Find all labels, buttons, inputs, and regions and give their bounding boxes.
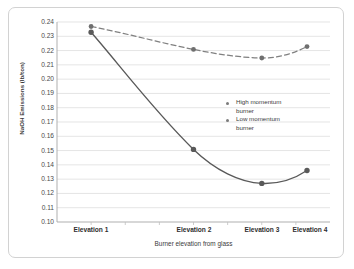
data-point [88,30,93,35]
y-axis-title: NaOH Emissions (lb/ton) [18,24,25,174]
y-tick-label: 0.22 [28,48,54,55]
y-tick-label: 0.23 [28,33,54,40]
y-tick-label: 0.21 [28,62,54,69]
x-axis-title: Burner elevation from glass [57,240,330,247]
y-tick-label: 0.15 [28,148,54,155]
y-tick-label: 0.19 [28,90,54,97]
legend-label-low-momentum: Low momentum burner [236,115,280,132]
y-axis-tick-labels: 0.24 0.23 0.22 0.21 0.20 0.19 0.18 0.17 … [28,0,54,269]
data-point [259,181,264,186]
y-tick-label: 0.11 [28,205,54,212]
x-tick-label-elevation-4: Elevation 4 [293,226,328,233]
x-tick-label-elevation-2: Elevation 2 [177,226,212,233]
legend-label-high-momentum: High momentum burner [236,98,281,115]
y-tick-label: 0.20 [28,76,54,83]
data-point [89,24,94,29]
y-tick-label: 0.12 [28,190,54,197]
y-tick-label: 0.17 [28,119,54,126]
data-point [259,56,264,61]
x-tick-label-elevation-1: Elevation 1 [74,226,109,233]
y-tick-label: 0.16 [28,133,54,140]
y-tick-label: 0.18 [28,105,54,112]
data-point [304,168,309,173]
data-point [191,47,196,52]
y-tick-label: 0.10 [28,219,54,226]
data-point [191,147,196,152]
y-tick-label: 0.13 [28,176,54,183]
data-point [305,44,310,49]
y-tick-label: 0.24 [28,19,54,26]
x-tick-label-elevation-3: Elevation 3 [245,226,280,233]
y-tick-label: 0.14 [28,162,54,169]
